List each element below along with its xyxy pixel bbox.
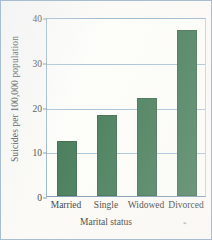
- bar-chart-figure: Suicides per 100,000 population 01020304…: [0, 0, 212, 240]
- y-axis-tick-label: 0: [37, 193, 47, 203]
- y-axis-tick-label: 40: [33, 14, 48, 24]
- bar: [177, 30, 197, 196]
- bar: [57, 141, 77, 196]
- y-axis-tick-label: 30: [33, 59, 48, 69]
- y-axis-tick-label: 10: [33, 148, 48, 158]
- bar: [137, 98, 157, 196]
- x-axis-tick-label: Married: [51, 200, 82, 210]
- x-axis-title: Marital status: [1, 217, 211, 227]
- x-axis-tick-label: Widowed: [128, 200, 165, 210]
- y-axis-tick-label: 20: [33, 104, 48, 114]
- plot-area: 010203040: [46, 18, 206, 197]
- stray-speck-mark: *: [183, 220, 187, 228]
- x-axis-tick-label: Divorced: [168, 200, 203, 210]
- bar: [97, 115, 117, 196]
- x-axis-tick-label: Single: [94, 200, 118, 210]
- y-axis-title-text: Suicides per 100,000 population: [10, 36, 20, 162]
- y-axis-title: Suicides per 100,000 population: [7, 1, 23, 197]
